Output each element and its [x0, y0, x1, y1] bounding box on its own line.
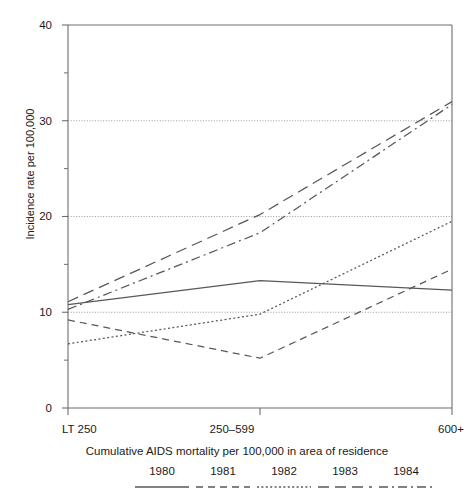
x-axis-title: Cumulative AIDS mortality per 100,000 in…: [0, 445, 474, 457]
legend-label-1980: 1980: [133, 464, 191, 478]
legend-label-1981: 1981: [194, 464, 252, 478]
x-tick-label-600plus: 600+: [438, 423, 464, 435]
series-line-1983: [68, 102, 452, 302]
series-line-1982: [68, 221, 452, 344]
x-tick-label-250-599: 250–599: [210, 423, 255, 435]
legend-swatch-1980: [133, 481, 191, 493]
legend-label-1982: 1982: [255, 464, 313, 478]
series-line-1980: [68, 281, 452, 305]
legend-label-1984: 1984: [377, 464, 435, 478]
legend-item-1981[interactable]: 1981: [194, 464, 252, 493]
legend-item-1984[interactable]: 1984: [377, 464, 435, 493]
legend-label-1983: 1983: [316, 464, 374, 478]
chart-figure: Incidence rate per 100,000 40 30 20 10 0…: [0, 0, 474, 503]
legend-item-1980[interactable]: 1980: [133, 464, 191, 493]
legend-swatch-1983: [316, 481, 374, 493]
x-tick-label-lt250: LT 250: [62, 423, 97, 435]
legend-item-1982[interactable]: 1982: [255, 464, 313, 493]
legend-item-1983[interactable]: 1983: [316, 464, 374, 493]
chart-legend: 1980 1981 1982 1983 1984: [0, 464, 474, 503]
legend-swatch-1984: [377, 481, 435, 493]
legend-swatch-1982: [255, 481, 313, 493]
legend-swatch-1981: [194, 481, 252, 493]
